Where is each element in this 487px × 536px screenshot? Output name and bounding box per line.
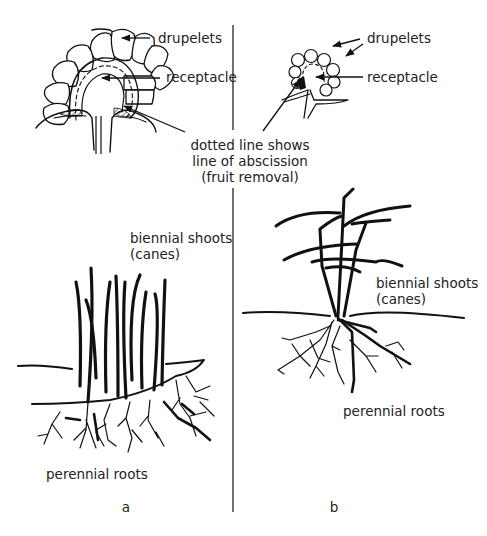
panel-b-roots-label: perennial roots: [343, 403, 445, 419]
panel-b-caption: b: [330, 499, 339, 515]
panel-a-roots-label: perennial roots: [46, 466, 148, 482]
panel-a-shoots-label-line1: biennial shoots: [130, 230, 232, 246]
blackberry-fruit-illustration: [263, 39, 363, 131]
abscission-note: dotted line shows line of abscission (fr…: [190, 137, 309, 185]
panel-b-shoots-label-line1: biennial shoots: [376, 275, 478, 291]
panel-a-caption: a: [122, 499, 130, 515]
panel-b-shoots-label-line2: (canes): [376, 291, 426, 307]
panel-b-drupelets-label: drupelets: [367, 30, 431, 46]
diagram-canvas: drupelets receptacle drupelets receptacl…: [0, 0, 487, 536]
raspberry-fruit-illustration: [36, 29, 185, 154]
panel-a-receptacle-label: receptacle: [166, 69, 237, 85]
abscission-note-line3: (fruit removal): [201, 169, 299, 185]
panel-a-shoots-label-line2: (canes): [130, 246, 180, 262]
abscission-note-line1: dotted line shows: [190, 137, 309, 153]
abscission-note-line2: line of abscission: [192, 153, 308, 169]
panel-b-receptacle-label: receptacle: [367, 69, 438, 85]
panel-a-drupelets-label: drupelets: [158, 30, 222, 46]
raspberry-canes-illustration: [18, 268, 214, 452]
